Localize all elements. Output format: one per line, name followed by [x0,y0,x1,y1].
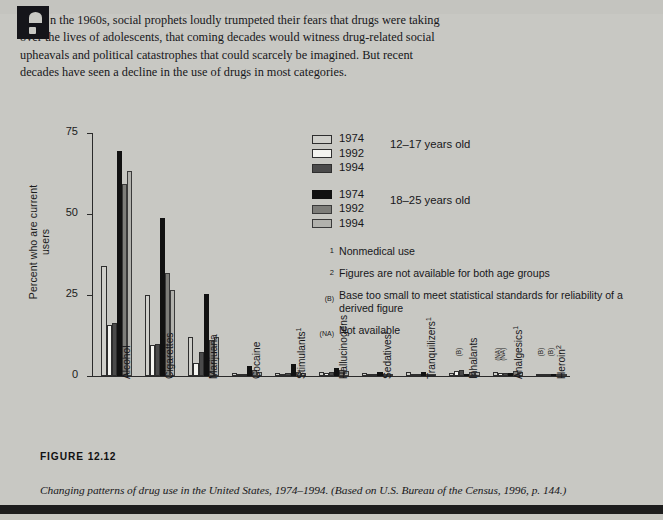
bar-group [101,133,132,376]
bar-annotation: (B) [547,348,554,356]
footnote-text: Nonmedical use [339,245,632,258]
footnote-marker: (NA) [312,327,334,340]
legend-row: 197418–25 years old [312,188,612,203]
bar-chart: Percent who are current users 0255075 (B… [12,120,651,395]
footnote-text: Figures are not available for both age g… [339,267,632,280]
legend-year-label: 1974 [339,132,364,144]
footnote-marker: 2 [312,266,334,279]
bar-annotation: (B) [455,348,462,356]
bar-annotation: (NA) [499,348,506,361]
footnote: 1Nonmedical use [312,245,632,258]
legend-swatch [312,149,332,158]
figure-tag-label: FIGURE [40,451,84,462]
footnotes: 1Nonmedical use2Figures are not availabl… [312,245,632,346]
legend-row: 1994 [312,161,612,176]
legend-row: 197412–17 years old [312,132,612,147]
legend: 197412–17 years old19921994197418–25 yea… [312,132,612,231]
legend-year-label: 1994 [339,161,364,173]
legend-swatch [312,205,332,214]
footnote: (NA)Not available [312,324,632,337]
intro-paragraph: n the 1960s, social prophets loudly trum… [20,12,450,82]
footnote-text: Base too small to meet statistical stand… [339,289,632,315]
y-tick-label: 0 [52,368,78,380]
legend-year-label: 1974 [339,188,364,200]
x-tick-label: Marijuana [208,334,219,379]
y-axis-title: Percent who are current users [27,172,51,312]
figure-plate: Percent who are current users 0255075 (B… [12,120,651,500]
legend-row: 1992 [312,147,612,162]
figure-tag-number: 12.12 [88,451,117,462]
footnote-marker: 1 [312,244,334,257]
x-tick-label: Heroin2 [555,345,567,379]
figure-page: n the 1960s, social prophets loudly trum… [0,0,663,520]
footnote-text: Not available [339,324,632,337]
figure-caption: Changing patterns of drug use in the Uni… [40,484,640,496]
figure-tag: FIGURE 12.12 [40,451,116,462]
bar-group [232,133,263,376]
x-tick-label: Cigarettes [164,333,175,379]
x-tick-label: Cocaine [251,342,262,379]
legend-spacer [312,176,612,188]
legend-swatch [312,164,332,173]
x-tick-label: Alcohol [121,346,132,379]
page-bottom-edge [0,514,663,520]
page-bottom-rule [0,505,663,514]
legend-swatch [312,219,332,228]
y-tick-label: 75 [52,125,78,137]
legend-row: 1992 [312,202,612,217]
legend-swatch [312,190,332,199]
footnote: (B)Base too small to meet statistical st… [312,289,632,315]
y-tick-label: 25 [52,287,78,299]
legend-row: 1994 [312,217,612,232]
footnote: 2Figures are not available for both age … [312,267,632,280]
y-tick-label: 50 [52,206,78,218]
intro-text: n the 1960s, social prophets loudly trum… [20,12,450,82]
legend-swatch [312,135,332,144]
x-tick-label: Stimulants1 [295,328,307,379]
legend-year-label: 1994 [339,217,364,229]
footnote-marker: (B) [312,292,334,305]
legend-year-label: 1992 [339,147,364,159]
bar-annotation: (B) [537,348,544,356]
legend-year-label: 1992 [339,202,364,214]
